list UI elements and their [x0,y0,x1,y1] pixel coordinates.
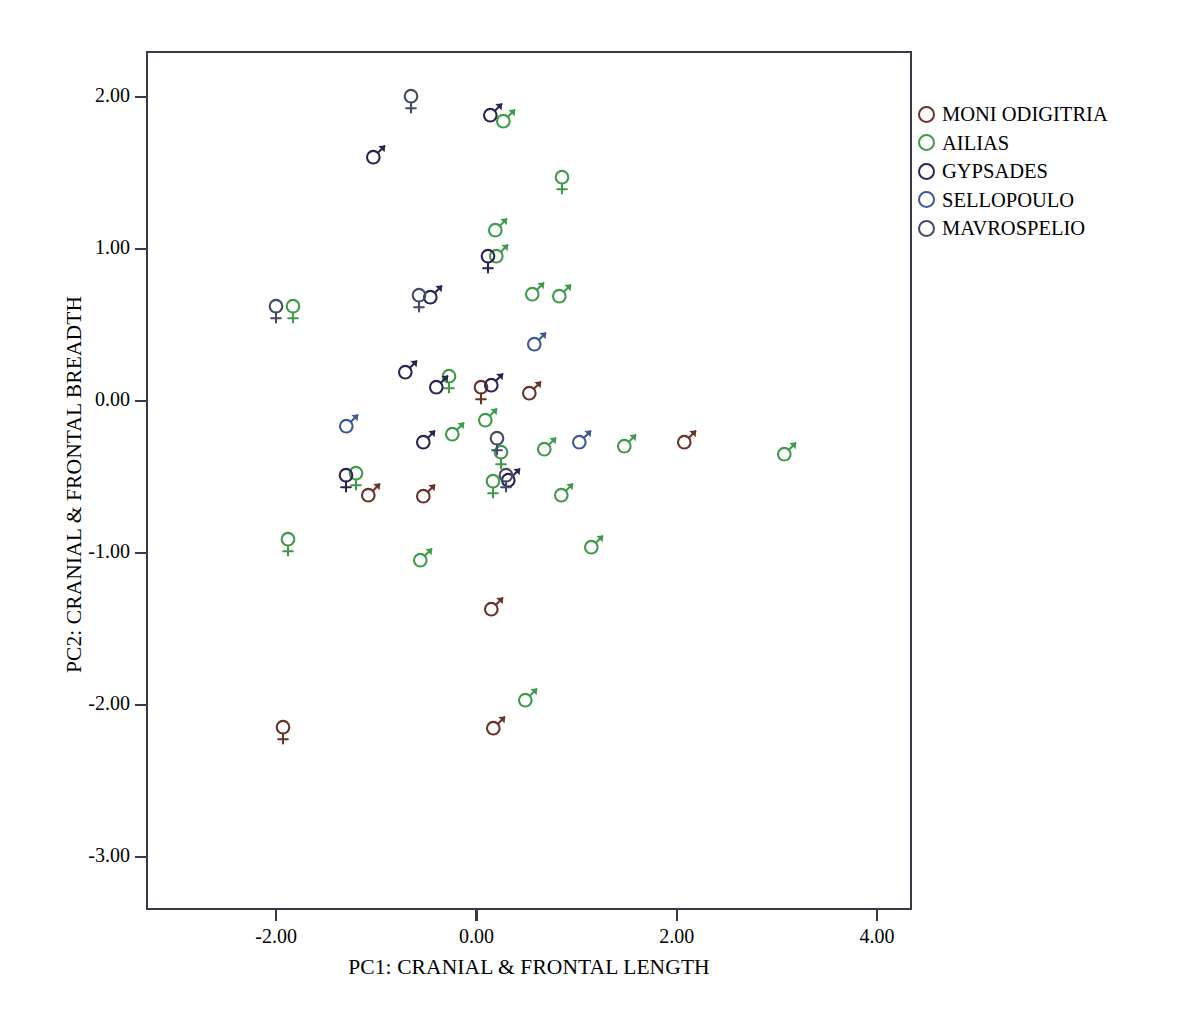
scatter-plot-figure: 2.001.000.00-1.00-2.00-3.00-2.000.002.00… [0,0,1181,1027]
legend-item-label: MONI ODIGITRIA [942,104,1108,125]
data-point-venus-icon [495,466,517,494]
data-point-mars-icon [551,479,577,505]
y-axis-tick-label: 2.00 [35,84,130,107]
data-point-mars-icon [442,418,468,444]
plot-frame [146,51,912,910]
data-point-venus-icon [408,286,430,314]
y-axis-tick-mark [135,704,146,706]
x-axis-title: PC1: CRANIAL & FRONTAL LENGTH [146,955,912,980]
legend-circle-icon [918,220,935,237]
x-axis-tick-mark [275,910,277,921]
data-point-mars-icon [395,356,421,382]
data-point-venus-icon [486,429,508,457]
y-axis-tick-mark [135,400,146,402]
data-point-venus-icon [277,530,299,558]
data-point-mars-icon [336,410,362,436]
data-point-mars-icon [524,328,550,354]
data-point-mars-icon [581,531,607,557]
data-point-mars-icon [485,214,511,240]
data-point-mars-icon [363,141,389,167]
data-point-mars-icon [774,438,800,464]
y-axis-title: PC2: CRANIAL & FRONTAL BREADTH [62,215,87,755]
data-point-mars-icon [515,684,541,710]
legend-item[interactable]: AILIAS [918,129,1168,158]
data-point-mars-icon [519,377,545,403]
y-axis-tick-mark [135,856,146,858]
legend-circle-icon [918,163,935,180]
legend-item[interactable]: MAVROSPELIO [918,214,1168,243]
data-point-mars-icon [549,280,575,306]
legend-item[interactable]: SELLOPOULO [918,186,1168,215]
data-point-mars-icon [483,712,509,738]
y-axis-tick-mark [135,248,146,250]
x-axis-tick-mark [876,910,878,921]
y-axis-tick-label: -3.00 [35,844,130,867]
x-axis-tick-label: 0.00 [436,925,516,948]
data-point-mars-icon [413,480,439,506]
y-axis-tick-mark [135,96,146,98]
legend-circle-icon [918,106,935,123]
data-point-mars-icon [522,278,548,304]
y-axis-tick-mark [135,552,146,554]
legend-circle-icon [918,134,935,151]
data-point-mars-icon [674,426,700,452]
data-point-mars-icon [481,369,507,395]
legend-circle-icon [918,191,935,208]
legend-item-label: GYPSADES [942,161,1048,182]
legend-item[interactable]: MONI ODIGITRIA [918,100,1168,129]
data-point-venus-icon [272,718,294,746]
x-axis-tick-label: 4.00 [837,925,917,948]
x-axis-tick-label: -2.00 [236,925,316,948]
data-point-mars-icon [534,433,560,459]
data-point-mars-icon [569,426,595,452]
data-point-mars-icon [410,544,436,570]
legend-item-label: SELLOPOULO [942,190,1074,211]
x-axis-tick-label: 2.00 [637,925,717,948]
data-point-mars-icon [475,404,501,430]
legend-item-label: MAVROSPELIO [942,218,1085,239]
data-point-mars-icon [413,426,439,452]
data-point-mars-icon [426,371,452,397]
x-axis-tick-mark [676,910,678,921]
data-point-mars-icon [480,99,506,125]
data-point-venus-icon [265,297,287,325]
data-point-venus-icon [477,247,499,275]
data-point-venus-icon [335,466,357,494]
data-point-mars-icon [481,593,507,619]
data-point-venus-icon [551,168,573,196]
x-axis-tick-mark [475,910,477,921]
legend-item[interactable]: GYPSADES [918,157,1168,186]
data-point-mars-icon [614,430,640,456]
legend-item-label: AILIAS [942,133,1009,154]
data-point-venus-icon [400,87,422,115]
legend: MONI ODIGITRIAAILIASGYPSADESSELLOPOULOMA… [918,100,1168,243]
